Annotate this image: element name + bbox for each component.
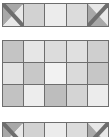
grid-cell [67, 4, 87, 26]
grid-cell [88, 63, 108, 84]
grid-cell [45, 85, 65, 106]
grid-block-bottom-strip [2, 122, 109, 137]
grid-cell [3, 63, 23, 84]
grid-block-top-strip [2, 3, 109, 27]
grid-cell [24, 63, 44, 84]
diagonal-split-icon [88, 4, 108, 26]
grid-cell [3, 41, 23, 62]
grid-cell [88, 123, 108, 137]
grid-cell [67, 63, 87, 84]
grid-cell [67, 41, 87, 62]
diagonal-split-icon [3, 123, 23, 137]
grid-cell [45, 41, 65, 62]
grid-block-middle-grid [2, 40, 109, 107]
grid-cell [67, 123, 87, 137]
grid-cell [88, 4, 108, 26]
grid-cell [24, 4, 44, 26]
grid-cell [67, 85, 87, 106]
grid-cell [24, 85, 44, 106]
grid-cell [45, 123, 65, 137]
grid-cell [3, 85, 23, 106]
grid-cell [24, 41, 44, 62]
grid-cell [3, 123, 23, 137]
diagonal-split-icon [3, 4, 23, 26]
grid-cell [45, 63, 65, 84]
grid-cell [88, 41, 108, 62]
grid-cell [3, 4, 23, 26]
grid-cell [45, 4, 65, 26]
diagonal-split-icon [88, 123, 108, 137]
grid-cell [88, 85, 108, 106]
grid-cell [24, 123, 44, 137]
